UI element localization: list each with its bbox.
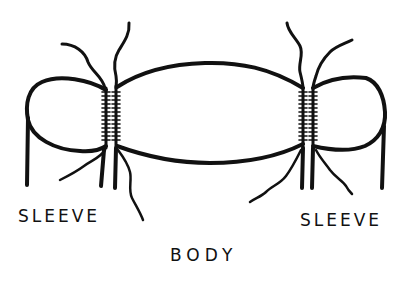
right-sleeve-label: SLEEVE [300,212,382,229]
sleeve-body-diagram [0,0,410,282]
left-seam [60,23,143,220]
left-sleeve-shape [27,78,106,186]
right-sleeve-shape [313,77,385,188]
right-seam [250,23,352,202]
body-shape [117,63,303,163]
left-sleeve-label: SLEEVE [18,208,100,225]
body-label: BODY [170,247,237,264]
